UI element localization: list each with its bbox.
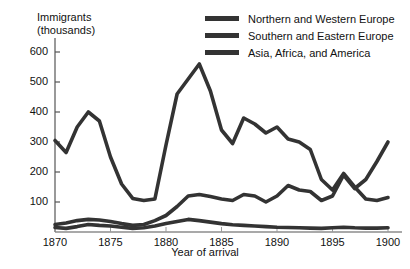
legend-item-label: Asia, Africa, and America xyxy=(248,47,370,59)
legend-swatch-icon xyxy=(205,16,239,21)
x-axis-tick-label: 1895 xyxy=(313,236,353,248)
y-axis-tick-label: 300 xyxy=(20,135,48,147)
chart-legend: Northern and Western Europe Southern and… xyxy=(205,10,395,61)
series-line xyxy=(55,64,388,201)
y-axis-tick-label: 100 xyxy=(20,195,48,207)
legend-item: Asia, Africa, and America xyxy=(205,44,395,61)
y-axis-tick-label: 200 xyxy=(20,165,48,177)
legend-item: Northern and Western Europe xyxy=(205,10,395,27)
legend-swatch-icon xyxy=(205,50,239,55)
x-axis-tick-label: 1880 xyxy=(146,236,186,248)
legend-item-label: Northern and Western Europe xyxy=(248,13,395,25)
legend-swatch-icon xyxy=(205,33,239,38)
legend-item-label: Southern and Eastern Europe xyxy=(248,30,394,42)
chart-container: Immigrants(thousands) Year of arrival 10… xyxy=(0,0,410,269)
y-axis-tick-label: 500 xyxy=(20,75,48,87)
y-axis-tick-label: 600 xyxy=(20,45,48,57)
legend-item: Southern and Eastern Europe xyxy=(205,27,395,44)
x-axis-tick-label: 1890 xyxy=(257,236,297,248)
x-axis-tick-label: 1885 xyxy=(202,236,242,248)
y-axis-tick-label: 400 xyxy=(20,105,48,117)
x-axis-tick-label: 1870 xyxy=(35,236,75,248)
series-line xyxy=(55,142,388,225)
x-axis-tick-label: 1900 xyxy=(368,236,408,248)
x-axis-tick-label: 1875 xyxy=(91,236,131,248)
